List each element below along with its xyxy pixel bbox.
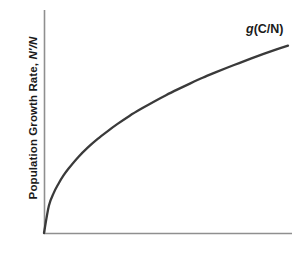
curve-annotation-plain: (C/N) bbox=[254, 22, 284, 36]
plot-area bbox=[0, 0, 304, 254]
growth-rate-curve bbox=[44, 46, 288, 233]
curve-annotation-italic: g bbox=[246, 22, 254, 36]
chart-figure: Population Growth Rate, N′/N g(C/N) bbox=[0, 0, 304, 254]
curve-annotation-label: g(C/N) bbox=[246, 22, 284, 36]
